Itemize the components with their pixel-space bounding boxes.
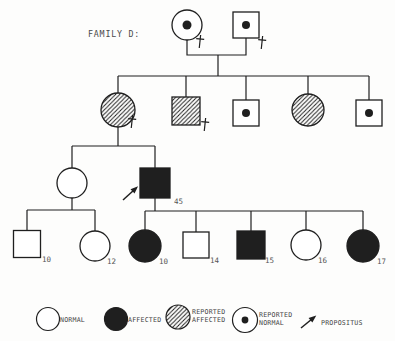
affected-square-symbol (237, 231, 265, 259)
individual-IV-2: 12 (80, 231, 116, 266)
individual-IV-3: 10 (129, 230, 169, 266)
reported-affected-circle-symbol (292, 94, 324, 126)
affected-square-symbol (140, 168, 170, 198)
legend-reported-affected-symbol (166, 305, 190, 329)
legend-item-normal: NORMAL (37, 308, 86, 331)
pedigree-diagram: FAMILY D: 4510121014151617 NORMALAFFECTE… (0, 0, 395, 341)
age-label-IV-1: 10 (42, 255, 52, 264)
individual-IV-7: 17 (347, 230, 386, 266)
reported-affected-circle-symbol (101, 93, 135, 127)
reported-normal-dot-icon (242, 21, 250, 29)
legend-layer: NORMALAFFECTEDREPORTEDAFFECTEDREPORTEDNO… (37, 305, 363, 333)
legend-normal-symbol (37, 308, 60, 331)
normal-circle-symbol (80, 231, 110, 261)
individual-II-5 (356, 100, 382, 126)
age-label-IV-3: 10 (159, 257, 169, 266)
individual-IV-1: 10 (14, 231, 52, 265)
individual-I-2 (233, 12, 259, 38)
family-title: FAMILY D: (88, 29, 140, 39)
reported-normal-dot-icon (242, 109, 250, 117)
individual-I-1 (172, 10, 202, 40)
age-label-IV-7: 17 (377, 257, 386, 266)
deceased-dagger-icon (200, 118, 209, 132)
legend-label: NORMAL (259, 319, 284, 327)
affected-circle-symbol (347, 230, 379, 262)
reported-normal-dot-icon (242, 317, 249, 324)
individual-II-3 (233, 100, 259, 126)
legend-item-reported-affected: REPORTEDAFFECTED (166, 305, 225, 329)
age-label-IV-4: 14 (210, 256, 220, 265)
reported-normal-dot-icon (365, 109, 373, 117)
individual-IV-4: 14 (183, 232, 220, 265)
legend-item-reported-normal: REPORTEDNORMAL (233, 308, 293, 333)
individual-III-1 (57, 168, 87, 198)
age-label-III-2: 45 (174, 197, 183, 206)
propositus-arrow-icon (123, 186, 138, 200)
legend-propositus-arrow-icon (301, 316, 316, 328)
scanned-pedigree-page: FAMILY D: 4510121014151617 NORMALAFFECTE… (0, 0, 395, 341)
legend-label: PROPOSITUS (321, 319, 363, 327)
individuals-layer: 4510121014151617 (14, 10, 387, 266)
legend-item-affected: AFFECTED (105, 308, 162, 331)
individual-II-1 (101, 93, 135, 127)
individual-IV-6: 16 (291, 230, 328, 265)
pedigree-connector-line (187, 38, 246, 55)
connector-lines-layer (27, 38, 369, 232)
affected-circle-symbol (129, 230, 161, 262)
individual-II-4 (292, 94, 324, 126)
reported-normal-dot-icon (183, 21, 192, 30)
legend-label: AFFECTED (192, 316, 225, 324)
normal-square-symbol (14, 231, 41, 258)
normal-circle-symbol (291, 230, 321, 260)
legend-label: AFFECTED (128, 316, 161, 324)
individual-III-2: 45 (140, 168, 183, 206)
individual-IV-5: 15 (237, 231, 274, 265)
reported-affected-square-symbol (172, 97, 200, 125)
age-label-IV-6: 16 (318, 256, 328, 265)
legend-label: NORMAL (60, 316, 85, 324)
legend-item-propositus: PROPOSITUS (301, 316, 363, 328)
normal-square-symbol (183, 232, 209, 258)
individual-II-2 (172, 97, 200, 125)
legend-label: REPORTED (259, 311, 292, 319)
age-label-IV-2: 12 (107, 257, 116, 266)
normal-circle-symbol (57, 168, 87, 198)
legend-label: REPORTED (192, 308, 225, 316)
legend-affected-symbol (105, 308, 128, 331)
age-label-IV-5: 15 (265, 256, 274, 265)
